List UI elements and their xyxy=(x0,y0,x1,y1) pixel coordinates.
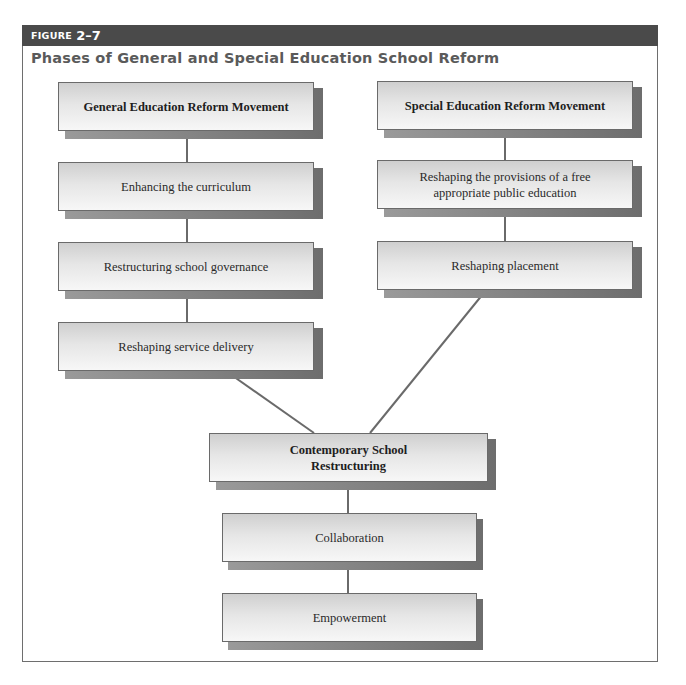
contemporary-restructuring-heading: Contemporary School Restructuring xyxy=(209,433,488,482)
step-empowerment: Empowerment xyxy=(222,593,477,642)
general-education-reform-heading-text: General Education Reform Movement xyxy=(83,99,288,115)
step-text: Restructuring school governance xyxy=(104,259,269,275)
connector-diagonal-right xyxy=(370,289,487,433)
step-reshaping-service-delivery: Reshaping service delivery xyxy=(58,322,314,371)
step-text: Enhancing the curriculum xyxy=(121,179,251,195)
step-text: Collaboration xyxy=(315,530,384,546)
step-text: Reshaping the provisions of a free appro… xyxy=(404,169,606,201)
contemporary-restructuring-heading-text: Contemporary School Restructuring xyxy=(280,442,417,474)
step-text: Reshaping service delivery xyxy=(118,339,253,355)
step-text: Reshaping placement xyxy=(451,258,558,274)
step-reshaping-placement: Reshaping placement xyxy=(377,241,633,290)
step-restructuring-governance: Restructuring school governance xyxy=(58,242,314,291)
special-education-reform-heading-text: Special Education Reform Movement xyxy=(405,98,605,114)
special-education-reform-heading: Special Education Reform Movement xyxy=(377,81,633,130)
general-education-reform-heading: General Education Reform Movement xyxy=(58,82,314,131)
step-enhancing-curriculum: Enhancing the curriculum xyxy=(58,162,314,211)
step-reshaping-fape: Reshaping the provisions of a free appro… xyxy=(377,160,633,209)
step-text: Empowerment xyxy=(313,610,387,626)
step-collaboration: Collaboration xyxy=(222,513,477,562)
